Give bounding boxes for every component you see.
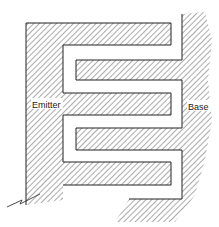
base-label: Base: [188, 102, 209, 112]
emitter-label: Emitter: [32, 100, 61, 110]
emitter-region: [26, 23, 171, 205]
emitter-base-diagram: Emitter Base: [0, 0, 219, 227]
